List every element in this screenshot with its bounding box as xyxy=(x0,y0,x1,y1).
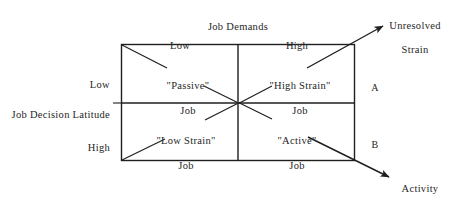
outcome-activity-level: Activity Level xyxy=(392,171,448,204)
quadrant-active-line2: Job xyxy=(250,160,344,173)
outcome-unresolved-strain: Unresolved Strain xyxy=(382,8,448,68)
top-axis-tick-high-label: High xyxy=(286,40,308,51)
quadrant-high-strain: "High Strain" Job xyxy=(248,67,352,130)
quadrant-passive-line2: Job xyxy=(140,105,236,118)
left-axis-title: Job Decision Latitude xyxy=(0,97,110,121)
top-axis-tick-low: Low xyxy=(150,28,210,52)
top-axis-title-text: Job Demands xyxy=(208,21,268,32)
left-axis-tick-high: High xyxy=(40,130,110,154)
quadrant-active: "Active" Job xyxy=(250,122,344,185)
quadrant-low-strain-line2: Job xyxy=(135,160,237,173)
quadrant-active-line1: "Active" xyxy=(250,135,344,148)
region-label-a-text: A xyxy=(371,82,379,93)
region-label-a: A xyxy=(365,70,385,94)
job-demand-control-diagram: Job Demands Low High Job Decision Latitu… xyxy=(0,0,450,204)
region-label-b: B xyxy=(365,127,385,151)
quadrant-passive: "Passive" Job xyxy=(140,67,236,130)
left-axis-tick-high-label: High xyxy=(88,142,110,153)
quadrant-low-strain-line1: "Low Strain" xyxy=(135,135,237,148)
quadrant-high-strain-line2: Job xyxy=(248,105,352,118)
outcome-unresolved-strain-line1: Unresolved xyxy=(382,20,448,32)
quadrant-low-strain: "Low Strain" Job xyxy=(135,122,237,185)
top-axis-tick-high: High xyxy=(267,28,327,52)
left-axis-tick-low-label: Low xyxy=(90,79,110,90)
outcome-activity-level-line1: Activity xyxy=(392,183,448,195)
top-axis-tick-low-label: Low xyxy=(170,40,190,51)
left-axis-title-text: Job Decision Latitude xyxy=(12,109,110,120)
outcome-unresolved-strain-line2: Strain xyxy=(382,44,448,56)
quadrant-passive-line1: "Passive" xyxy=(140,80,236,93)
left-axis-tick-low: Low xyxy=(40,67,110,91)
region-label-b-text: B xyxy=(372,139,379,150)
quadrant-high-strain-line1: "High Strain" xyxy=(248,80,352,93)
